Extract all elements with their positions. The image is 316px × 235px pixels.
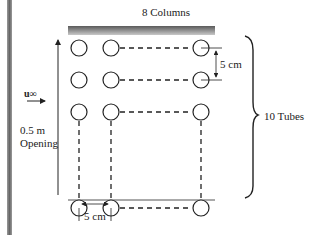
- opening-label-2: Opening: [20, 137, 58, 149]
- vertical-spacing-label: 5 cm: [220, 58, 242, 70]
- tubes: [71, 40, 209, 216]
- opening-label-1: 0.5 m: [20, 124, 45, 136]
- brace: [245, 36, 258, 198]
- top-plate: [68, 26, 215, 35]
- columns-label: 8 Columns: [142, 6, 190, 18]
- horizontal-spacing-label: 5 cm: [84, 210, 106, 222]
- tubes-label: 10 Tubes: [264, 110, 304, 122]
- flow-velocity-label: u∞: [24, 88, 37, 100]
